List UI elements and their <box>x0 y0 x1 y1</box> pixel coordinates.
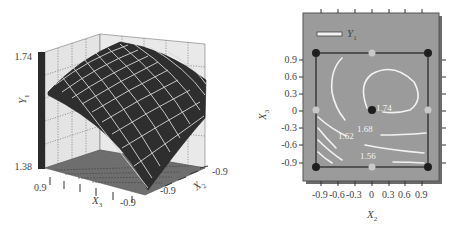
x2-tick-neg0.3: -0.3 <box>346 189 362 200</box>
x2-tick-0: 0 <box>369 189 374 200</box>
contour-label-156: 1.56 <box>360 151 376 161</box>
z-axis-letter: Y <box>16 98 28 104</box>
x3-tick-neg0.3: -0.3 <box>271 122 297 133</box>
contour-label-168: 1.68 <box>357 124 373 134</box>
contour-plot-panel: Y1 1.74 1.68 1.62 1.56 0.9 0.6 0.3 0 -0.… <box>235 0 453 231</box>
z-axis-title: Y1 <box>16 94 31 104</box>
x3-tick-right: -0.9 <box>120 197 136 208</box>
x3-axis-letter: X <box>92 194 99 206</box>
x2-tick-0.9: 0.9 <box>415 189 428 200</box>
contour-label-174: 1.74 <box>376 103 392 113</box>
x2-axis-title: X2 <box>367 208 377 223</box>
x2-tick-0.3: 0.3 <box>382 189 395 200</box>
contour-label-162: 1.62 <box>338 131 354 141</box>
x3-axis-title: X3 <box>92 194 102 209</box>
x2-tick-neg0.6: -0.6 <box>329 189 345 200</box>
x3-axis-letter: X <box>256 113 268 120</box>
legend-sub: 1 <box>353 34 357 42</box>
x3-tick-neg0.6: -0.6 <box>271 139 297 150</box>
z-tick-top: 1.74 <box>6 51 32 62</box>
x2-tick-0.6: 0.6 <box>398 189 411 200</box>
x2-tick-near: -0.9 <box>160 185 176 196</box>
x3-axis-title: X3 <box>256 110 271 120</box>
x2-tick-neg0.9: -0.9 <box>312 189 328 200</box>
x3-tick-0: 0 <box>271 105 297 116</box>
z-tick-bottom: 1.38 <box>6 161 32 172</box>
surface-plot-graphic <box>0 0 235 231</box>
legend-label: Y1 <box>347 27 357 42</box>
z-axis-sub: 1 <box>23 94 31 98</box>
x3-axis-sub: 3 <box>263 110 271 114</box>
x3-axis-sub: 3 <box>99 201 103 209</box>
x2-axis-sub: 2 <box>374 215 378 223</box>
x3-tick-neg0.9: -0.9 <box>271 157 297 168</box>
x3-tick-0.6: 0.6 <box>271 71 297 82</box>
x2-tick-far: -0.9 <box>212 166 228 177</box>
x3-tick-left: 0.9 <box>34 182 47 193</box>
x2-axis-letter: X <box>367 208 374 220</box>
x3-tick-0.3: 0.3 <box>271 88 297 99</box>
x3-tick-0.9: 0.9 <box>271 54 297 65</box>
surface-plot-panel: 1.74 1.38 Y1 0.9 -0.9 X3 -0.9 -0.9 X2 <box>0 0 235 231</box>
